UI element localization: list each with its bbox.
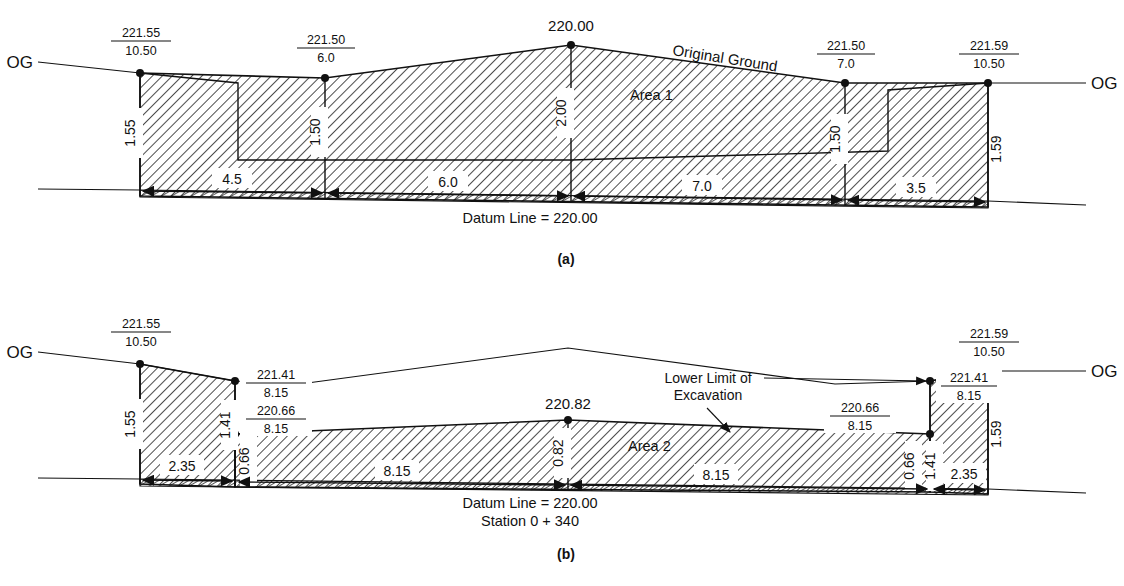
svg-text:1.41: 1.41	[217, 411, 233, 438]
elev-bottom: 7.0	[837, 57, 854, 71]
svg-text:1.55: 1.55	[122, 410, 138, 437]
elev-top: 221.50	[827, 39, 865, 53]
elev-label-right-stake-a: 221.59 10.50	[953, 35, 1025, 71]
svg-text:1.41: 1.41	[922, 452, 938, 479]
node-left-top-cut-b	[231, 377, 239, 385]
elev-label-left-top-cut-b: 221.41 8.15	[240, 364, 312, 400]
elev-label-centre-b: 220.82	[545, 395, 591, 412]
elev-label-left-stake-b: 221.55 10.50	[105, 313, 177, 349]
hdim-8-15-right-b: 8.15	[694, 464, 738, 484]
hdim-3-5-a: 3.5	[896, 177, 936, 197]
svg-text:6.0: 6.0	[438, 174, 458, 190]
elev-label-left-subgrade-b: 220.66 8.15	[240, 400, 312, 436]
elev-top: 221.41	[950, 371, 988, 385]
vdim-1-59-a: 1.59	[988, 124, 1009, 174]
elev-label-left-stake-a: 221.55 10.50	[105, 22, 177, 58]
og-label-right-a: OG	[1091, 74, 1117, 93]
svg-text:8.15: 8.15	[702, 467, 729, 483]
hdim-2-35-left-b: 2.35	[160, 455, 204, 475]
hdim-6-0-a: 6.0	[428, 171, 468, 191]
cross-section-figure: OG OG Original Ground Area 1 221.55 10.5…	[0, 0, 1124, 586]
og-label-left-b: OG	[7, 343, 33, 362]
section-b: OG OG Area 2 Lower Limit of Excavation 2…	[7, 313, 1118, 562]
elev-bottom: 10.50	[125, 335, 156, 349]
node-right-7-a	[841, 79, 849, 87]
elev-bottom: 8.15	[264, 422, 288, 436]
elev-top: 221.55	[122, 317, 160, 331]
vdim-1-59-b: 1.59	[988, 409, 1009, 459]
elev-bottom: 6.0	[317, 51, 334, 65]
svg-text:1.50: 1.50	[827, 125, 843, 152]
node-left-stake-b	[136, 360, 144, 368]
og-line-left-a	[38, 62, 140, 73]
lower-limit-label-line2: Excavation	[674, 387, 742, 403]
svg-text:7.0: 7.0	[692, 178, 712, 194]
elev-top: 221.59	[970, 39, 1008, 53]
figure-canvas: OG OG Original Ground Area 1 221.55 10.5…	[0, 0, 1124, 586]
hdim-4-5-a: 4.5	[212, 168, 252, 188]
elev-label-right-subgrade-b: 220.66 8.15	[824, 397, 896, 433]
og-label-right-b: OG	[1091, 362, 1117, 381]
svg-text:1.59: 1.59	[988, 135, 1004, 162]
datum-line-left-b	[38, 478, 140, 479]
svg-text:8.15: 8.15	[383, 463, 410, 479]
elev-top: 221.41	[257, 368, 295, 382]
elev-label-left-6-a: 221.50 6.0	[291, 29, 361, 65]
vdim-1-55-b: 1.55	[122, 399, 143, 449]
elev-top: 220.00	[548, 17, 594, 34]
elev-bottom: 10.50	[973, 57, 1004, 71]
node-left-6-a	[321, 74, 329, 82]
datum-line-left-a	[38, 189, 140, 190]
node-right-stake-a	[984, 79, 992, 87]
elev-bottom: 10.50	[125, 44, 156, 58]
svg-text:3.5: 3.5	[906, 180, 926, 196]
svg-text:1.50: 1.50	[307, 118, 323, 145]
station-label-b: Station 0 + 340	[481, 513, 579, 529]
hdim-arrow-2-35-right-b	[934, 489, 985, 490]
svg-text:0.66: 0.66	[901, 452, 917, 479]
svg-text:1.59: 1.59	[988, 420, 1004, 447]
datum-label-a: Datum Line = 220.00	[462, 210, 597, 226]
lower-limit-label-line1: Lower Limit of	[664, 370, 751, 386]
elev-top: 221.59	[970, 327, 1008, 341]
datum-line-right-a	[988, 201, 1086, 205]
hdim-arrow-2-35-left-b	[143, 480, 232, 481]
datum-line-right-b	[988, 489, 1086, 493]
elev-bottom: 8.15	[957, 389, 981, 403]
elev-bottom: 8.15	[848, 419, 872, 433]
node-centre-a	[567, 41, 575, 49]
elev-top: 220.66	[257, 404, 295, 418]
svg-text:4.5: 4.5	[222, 171, 242, 187]
node-centre-b	[564, 416, 572, 424]
section-a: OG OG Original Ground Area 1 221.55 10.5…	[7, 17, 1118, 267]
svg-text:2.00: 2.00	[553, 99, 569, 126]
node-right-top-cut-b	[926, 377, 934, 385]
node-right-subgrade-b	[926, 430, 934, 438]
elev-top: 221.50	[307, 33, 345, 47]
caption-a: (a)	[557, 251, 574, 267]
elev-label-centre-a: 220.00	[548, 17, 594, 34]
svg-text:2.35: 2.35	[950, 466, 977, 482]
elev-label-right-7-a: 221.50 7.0	[811, 35, 881, 71]
svg-text:0.66: 0.66	[236, 447, 252, 474]
caption-b: (b)	[557, 546, 575, 562]
area-1-label: Area 1	[630, 87, 673, 103]
elev-top: 220.66	[841, 401, 879, 415]
elev-bottom: 8.15	[264, 386, 288, 400]
lower-limit-leader-upper	[764, 378, 926, 381]
hdim-8-15-left-b: 8.15	[375, 460, 419, 480]
elev-label-right-top-cut-b: 221.41 8.15	[936, 367, 1002, 403]
vdim-1-55-a: 1.55	[122, 108, 143, 158]
elev-top: 220.82	[545, 395, 591, 412]
svg-text:0.82: 0.82	[550, 439, 566, 466]
elev-label-right-stake-b: 221.59 10.50	[953, 323, 1025, 359]
datum-label-b: Datum Line = 220.00	[462, 495, 597, 511]
elev-top: 221.55	[122, 26, 160, 40]
svg-text:1.55: 1.55	[122, 119, 138, 146]
hdim-7-0-a: 7.0	[682, 175, 722, 195]
og-label-left-a: OG	[7, 53, 33, 72]
area-2-label: Area 2	[628, 438, 671, 454]
hdim-2-35-right-b: 2.35	[942, 463, 986, 483]
node-left-stake-a	[136, 69, 144, 77]
elev-bottom: 10.50	[973, 345, 1004, 359]
